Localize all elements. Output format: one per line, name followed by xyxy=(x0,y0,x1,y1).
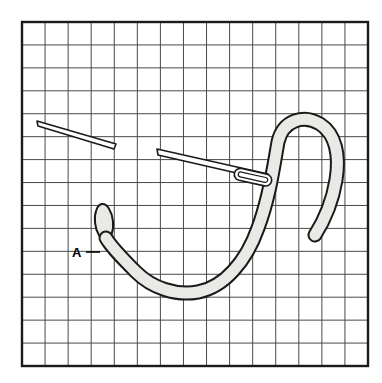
background-rect xyxy=(0,0,382,383)
stitch-diagram: A xyxy=(0,0,382,383)
point-label-a-text: A xyxy=(72,245,82,260)
diagram-canvas: A xyxy=(0,0,382,383)
